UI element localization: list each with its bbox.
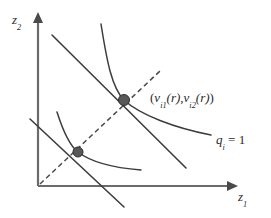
point-label-v1-subscript: i1 — [160, 101, 166, 110]
diagram-svg — [0, 0, 271, 218]
x-axis-label-subscript: 1 — [243, 200, 247, 209]
isocost-line-lower — [30, 119, 124, 207]
isoquant-curve-upper — [101, 24, 211, 135]
point-label-v2-arg: (r) — [196, 90, 210, 105]
isoquant-label-q-subscript: i — [223, 143, 225, 152]
marker-lower-intersection — [73, 147, 83, 157]
point-label-close-paren: ) — [210, 90, 214, 105]
y-axis-arrowhead-icon — [33, 12, 43, 23]
y-axis-label-subscript: 2 — [17, 23, 21, 32]
x-axis-arrowhead-icon — [227, 181, 238, 191]
point-label-v1-arg: (r) — [167, 90, 181, 105]
isoquant-level-label: qi = 1 — [216, 133, 245, 146]
point-label-v2-subscript: i2 — [189, 101, 195, 110]
point-coordinate-label: (vi1(r),vi2(r)) — [150, 91, 214, 104]
isoquant-label-equation: = 1 — [225, 132, 245, 147]
isoquant-curve-lower — [57, 112, 141, 170]
isoquant-label-q: q — [216, 132, 223, 147]
y-axis-label: z2 — [12, 13, 21, 26]
expansion-path-dashed-ray — [40, 71, 160, 184]
marker-upper-intersection — [119, 95, 130, 106]
x-axis-label: z1 — [238, 190, 247, 203]
figure-canvas: z2 z1 (vi1(r),vi2(r)) qi = 1 — [0, 0, 271, 218]
